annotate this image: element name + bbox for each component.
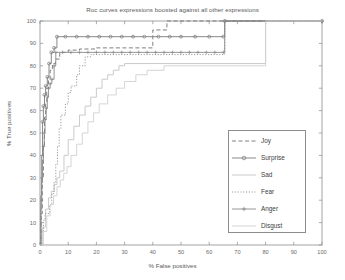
y-tick-label: 30 [16, 175, 36, 181]
x-tick-label: 10 [65, 249, 71, 255]
legend-item-surprise[interactable]: Surprise [229, 149, 307, 166]
y-tick-label: 90 [16, 40, 36, 46]
legend-item-joy[interactable]: Joy [229, 132, 307, 149]
legend-label: Fear [259, 188, 274, 195]
x-tick-label: 0 [38, 249, 41, 255]
x-tick-label: 100 [317, 249, 326, 255]
legend-item-fear[interactable]: Fear [229, 183, 307, 200]
legend-swatch-anger [229, 201, 259, 217]
y-tick-label: 0 [16, 242, 36, 248]
y-tick-label: 20 [16, 197, 36, 203]
x-tick-label: 40 [150, 249, 156, 255]
y-tick-label: 40 [16, 152, 36, 158]
y-tick-label: 50 [16, 130, 36, 136]
legend-label: Surprise [259, 154, 285, 161]
x-tick-label: 60 [206, 249, 212, 255]
legend-label: Anger [259, 205, 278, 212]
legend-swatch-surprise [229, 150, 259, 166]
legend-swatch-disgust [229, 218, 259, 234]
y-tick-label: 10 [16, 220, 36, 226]
x-tick-label: 80 [262, 249, 268, 255]
legend-item-anger[interactable]: Anger [229, 200, 307, 217]
y-tick-label: 100 [16, 18, 36, 24]
legend-item-sad[interactable]: Sad [229, 166, 307, 183]
legend-swatch-joy [229, 133, 259, 149]
legend-swatch-fear [229, 184, 259, 200]
y-tick-label: 70 [16, 85, 36, 91]
x-tick-label: 70 [234, 249, 240, 255]
x-tick-label: 90 [291, 249, 297, 255]
legend-swatch-sad [229, 167, 259, 183]
legend-label: Disgust [259, 222, 282, 229]
legend-label: Sad [259, 171, 272, 178]
x-tick-label: 30 [121, 249, 127, 255]
chart-legend: JoySurpriseSadFearAngerDisgust [228, 130, 306, 233]
legend-label: Joy [259, 137, 271, 144]
y-tick-label: 80 [16, 63, 36, 69]
legend-item-disgust[interactable]: Disgust [229, 217, 307, 234]
y-tick-label: 60 [16, 108, 36, 114]
x-tick-label: 50 [178, 249, 184, 255]
roc-chart-figure: Roc curves expressions boosted against a… [0, 0, 345, 280]
x-tick-label: 20 [93, 249, 99, 255]
